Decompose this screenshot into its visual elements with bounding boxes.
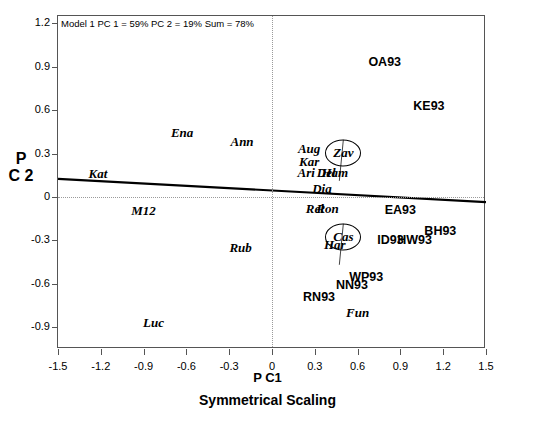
y-tick — [52, 284, 58, 285]
x-tick — [486, 349, 487, 355]
x-tick — [58, 349, 59, 355]
point-label-ari: Ari — [298, 165, 315, 181]
y-tick — [52, 240, 58, 241]
x-tick — [272, 349, 273, 355]
plot-area: Model 1 PC 1 = 59% PC 2 = 19% Sum = 78% … — [57, 15, 485, 348]
point-label-ena: Ena — [171, 125, 193, 141]
point-label-zav: Zav — [333, 145, 353, 161]
point-label-ea93: EA93 — [385, 203, 416, 217]
x-tick — [101, 349, 102, 355]
x-tick — [443, 349, 444, 355]
y-tick — [52, 327, 58, 328]
point-label-luc: Luc — [143, 315, 164, 331]
y-tick-label: 0.6 — [16, 103, 50, 115]
y-tick — [52, 23, 58, 24]
y-tick-label: -0.3 — [16, 233, 50, 245]
x-tick — [144, 349, 145, 355]
y-tick — [52, 197, 58, 198]
y-tick-label: -0.6 — [16, 277, 50, 289]
x-tick — [315, 349, 316, 355]
point-label-har: Har — [324, 237, 346, 253]
y-tick — [52, 154, 58, 155]
gridline-x-zero — [272, 16, 273, 347]
gridline-y-zero — [58, 197, 484, 198]
point-label-rub: Rub — [229, 240, 251, 256]
y-tick-label: 0.3 — [16, 147, 50, 159]
point-label-ke93: KE93 — [413, 99, 444, 113]
point-label-oa93: OA93 — [368, 55, 401, 69]
point-label-ron: Ron — [316, 201, 338, 217]
figure-caption: Symmetrical Scaling — [0, 392, 535, 408]
point-label-ann: Ann — [230, 134, 253, 150]
y-tick-label: -0.9 — [16, 320, 50, 332]
y-tick-label: 0 — [16, 190, 50, 202]
x-axis-title: P C1 — [0, 370, 535, 385]
point-label-rn93: RN93 — [303, 290, 335, 304]
point-label-dia: Dia — [312, 181, 332, 197]
figure-root: P C 2 Model 1 PC 1 = 59% PC 2 = 19% Sum … — [0, 0, 535, 428]
point-label-ham: Ham — [321, 165, 348, 181]
point-label-nn93: NN93 — [336, 278, 368, 292]
x-axis-title-text: P C1 — [253, 370, 282, 385]
y-tick-label: 0.9 — [16, 60, 50, 72]
point-label-fun: Fun — [346, 305, 369, 321]
point-label-id93: ID93 — [377, 233, 403, 247]
figure-caption-text: Symmetrical Scaling — [199, 392, 336, 408]
y-tick — [52, 67, 58, 68]
x-tick — [229, 349, 230, 355]
x-tick — [358, 349, 359, 355]
point-label-m12: M12 — [131, 203, 156, 219]
y-tick — [52, 110, 58, 111]
x-tick — [400, 349, 401, 355]
point-label-kat: Kat — [89, 166, 108, 182]
y-tick-label: 1.2 — [16, 16, 50, 28]
x-tick — [186, 349, 187, 355]
